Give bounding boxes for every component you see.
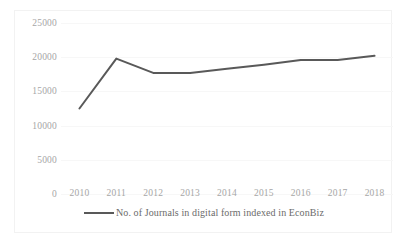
x-tick-2017: 2017 [318, 188, 358, 199]
y-axis-tick-labels: 25000 20000 15000 10000 5000 0 [15, 23, 57, 194]
x-tick-2018: 2018 [355, 188, 395, 199]
y-tick-20000: 20000 [17, 52, 57, 62]
chart-figure: 25000 20000 15000 10000 5000 0 2010 2011… [14, 10, 392, 233]
chart-legend: No. of Journals in digital form indexed … [15, 207, 393, 219]
series-line-journals [79, 56, 374, 109]
y-tick-10000: 10000 [17, 121, 57, 131]
x-tick-2013: 2013 [170, 188, 210, 199]
x-axis-tick-labels: 2010 2011 2012 2013 2014 2015 2016 2017 … [61, 188, 393, 202]
plot-area [61, 23, 393, 194]
y-tick-25000: 25000 [17, 18, 57, 28]
legend-line-swatch-icon [84, 212, 114, 214]
legend-label-journals: No. of Journals in digital form indexed … [116, 207, 324, 219]
series-line-chart [61, 23, 393, 194]
x-tick-2010: 2010 [59, 188, 99, 199]
x-tick-2015: 2015 [244, 188, 284, 199]
x-tick-2012: 2012 [133, 188, 173, 199]
x-tick-2016: 2016 [281, 188, 321, 199]
x-tick-2014: 2014 [207, 188, 247, 199]
y-tick-15000: 15000 [17, 86, 57, 96]
y-tick-5000: 5000 [17, 155, 57, 165]
x-tick-2011: 2011 [96, 188, 136, 199]
y-tick-0: 0 [17, 189, 57, 199]
